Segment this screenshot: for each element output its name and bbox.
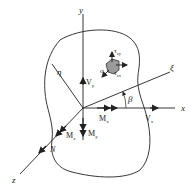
eta-label: η bbox=[57, 67, 62, 77]
mz-arrow-2 bbox=[56, 130, 62, 136]
mz-label: Mz bbox=[66, 131, 76, 141]
beta-label: β bbox=[127, 94, 133, 104]
z-label: z bbox=[11, 175, 16, 185]
sigma-z-label: σz bbox=[100, 67, 106, 76]
xi-label: ξ bbox=[170, 63, 174, 73]
my-label: My bbox=[88, 129, 98, 139]
x-label: x bbox=[180, 103, 185, 113]
z-axis bbox=[20, 108, 83, 174]
diagram-svg: y x z ξ η β Vy Mx Vx Mz My N τzy τzx σz bbox=[0, 0, 194, 188]
cross-section-diagram: y x z ξ η β Vy Mx Vx Mz My N τzy τzx σz bbox=[0, 0, 194, 188]
n-label: N bbox=[49, 145, 56, 154]
vx-label: Vx bbox=[145, 114, 154, 124]
beta-arc bbox=[123, 92, 126, 108]
n-arrow bbox=[39, 146, 46, 153]
vy-label: Vy bbox=[86, 78, 95, 88]
section-outline bbox=[45, 30, 150, 177]
mx-label: Mx bbox=[99, 114, 109, 124]
xi-axis bbox=[83, 72, 170, 108]
tau-zy-label: τzy bbox=[114, 47, 122, 56]
y-label: y bbox=[78, 5, 83, 15]
